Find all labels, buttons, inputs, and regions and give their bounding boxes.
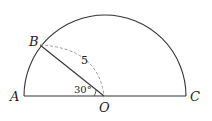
diagram: A B O C 5 30°	[0, 0, 212, 121]
angle-label: 30°	[74, 84, 92, 95]
label-B: B	[28, 34, 39, 49]
segment-length-label: 5	[81, 54, 88, 67]
label-A: A	[9, 89, 19, 104]
segment-OB	[40, 45, 104, 96]
semicircle-figure: A B O C 5 30°	[0, 0, 212, 121]
label-O: O	[99, 100, 110, 115]
label-C: C	[190, 89, 200, 104]
semicircle-arc	[24, 15, 186, 96]
angle-arc	[94, 90, 96, 96]
